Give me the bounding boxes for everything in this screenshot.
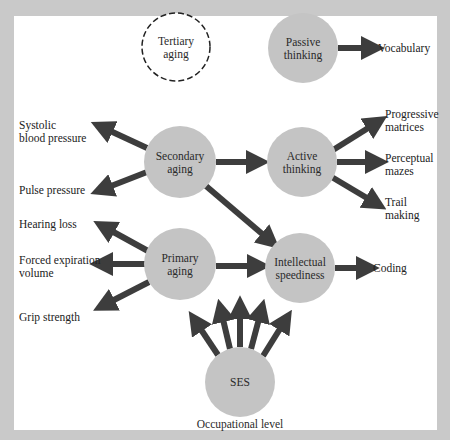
node-label: Tertiary: [158, 35, 194, 48]
arrow-ses-5: [263, 324, 283, 356]
label-perceptual-mazes-1: Perceptual: [385, 152, 434, 165]
label-progressive-matrices-2: matrices: [385, 121, 424, 133]
label-grip-strength: Grip strength: [19, 311, 80, 324]
node-passive-thinking: Passive thinking: [268, 13, 338, 83]
node-label: Intellectual: [274, 256, 326, 268]
arrow-secondary-pulse: [106, 172, 147, 188]
arrow-primary-grip: [108, 282, 149, 303]
arrow-secondary-speediness: [206, 186, 267, 238]
node-secondary-aging: Secondary aging: [144, 126, 216, 198]
node-label: Secondary: [156, 150, 205, 163]
node-label: Passive: [286, 36, 321, 48]
node-ses: SES: [205, 347, 275, 417]
node-label: SES: [230, 376, 250, 388]
label-trail-making-2: making: [385, 209, 420, 222]
node-label: thinking: [283, 163, 322, 176]
node-primary-aging: Primary aging: [144, 228, 216, 300]
arrows: [106, 48, 373, 356]
label-trail-making-1: Trail: [385, 196, 407, 208]
node-label: aging: [167, 265, 193, 278]
label-forced-expiration-1: Forced expiration: [19, 254, 101, 267]
aging-diagram: Tertiary aging Passive thinking Secondar…: [0, 0, 450, 440]
arrow-primary-hearing: [108, 229, 148, 251]
node-tertiary-aging: Tertiary aging: [142, 13, 210, 81]
node-label: Active: [287, 150, 318, 162]
arrow-active-progressive: [333, 125, 373, 150]
arrow-ses-2: [222, 315, 230, 349]
node-intellectual-speediness: Intellectual speediness: [265, 233, 335, 303]
node-active-thinking: Active thinking: [267, 127, 337, 197]
arrow-ses-4: [251, 315, 260, 349]
label-progressive-matrices-1: Progressive: [385, 108, 439, 121]
node-label: speediness: [275, 269, 325, 282]
label-coding: Coding: [373, 262, 407, 275]
arrow-active-trail: [330, 176, 372, 201]
label-perceptual-mazes-2: mazes: [385, 165, 414, 177]
label-forced-expiration-2: volume: [19, 267, 54, 279]
node-label: Primary: [161, 252, 198, 265]
label-vocabulary: Vocabulary: [378, 42, 430, 55]
label-occupational-level: Occupational level: [197, 418, 284, 431]
node-label: aging: [167, 163, 193, 176]
node-label: aging: [163, 48, 189, 61]
label-pulse-pressure: Pulse pressure: [19, 184, 85, 197]
node-label: thinking: [284, 49, 323, 62]
arrow-ses-1: [198, 325, 218, 355]
label-systolic-2: blood pressure: [19, 132, 86, 145]
arrow-secondary-systolic: [106, 129, 147, 148]
label-hearing-loss: Hearing loss: [19, 218, 77, 231]
label-systolic-1: Systolic: [19, 119, 56, 132]
